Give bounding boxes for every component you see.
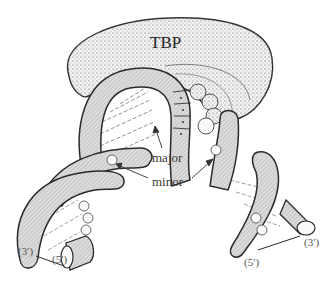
dna-right-helix	[210, 111, 315, 258]
major-arrow-head	[153, 126, 159, 133]
major-groove-label: major	[152, 150, 183, 165]
strand-end-cap	[297, 221, 315, 235]
tbp-dna-diagram: TBP major minor (3′) (5′) (5′) (3′)	[0, 0, 336, 281]
tbp-label: TBP	[150, 33, 181, 52]
left-5prime-label: (5′)	[52, 253, 68, 266]
left-3prime-label: (3′)	[18, 245, 34, 258]
right-5prime-label: (5′)	[244, 256, 260, 269]
dna-left-helix	[17, 148, 152, 270]
right-3prime-label: (3′)	[304, 236, 320, 249]
minor-groove-label: minor	[152, 174, 184, 189]
minor-arrow-right	[192, 162, 210, 178]
